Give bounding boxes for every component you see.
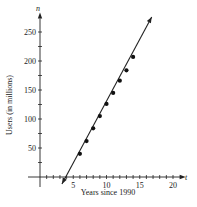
data-point [78,152,82,156]
y-axis-title: Users (in millions) [5,75,14,135]
y-axis-arrow-icon [38,12,42,18]
data-point [104,102,108,106]
y-tick-label: 250 [24,28,36,37]
x-tick-label: 20 [169,181,177,190]
x-var-label: t [185,173,188,182]
data-point [98,114,102,118]
regression-line [62,17,152,184]
y-tick-label: 100 [24,115,36,124]
y-tick-label: 150 [24,86,36,95]
line-arrow-up-icon [147,17,152,23]
ticks: 510152050100150200250 [24,28,177,190]
data-point [111,91,115,95]
data-point [131,55,135,59]
x-tick-label: 15 [136,181,144,190]
chart: 510152050100150200250 n t Years since 19… [0,0,197,207]
y-tick-label: 200 [24,57,36,66]
x-tick-label: 5 [71,181,75,190]
data-point [91,126,95,130]
y-tick-label: 50 [28,144,36,153]
data-points [78,55,135,156]
data-point [84,139,88,143]
data-point [124,68,128,72]
fit-line [62,17,152,184]
data-point [118,79,122,83]
y-var-label: n [36,4,40,13]
line-arrow-down-icon [62,178,67,184]
x-axis-title: Years since 1990 [81,188,135,197]
